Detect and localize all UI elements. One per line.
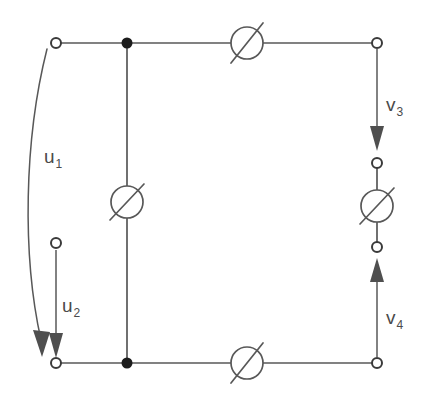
junction-top-center (122, 38, 133, 49)
terminal-top-right[interactable] (372, 38, 382, 48)
arrow-v3 (370, 49, 384, 151)
terminal-right-upper[interactable] (372, 158, 382, 168)
terminal-bottom-left[interactable] (51, 358, 61, 368)
circuit-element-group (110, 23, 394, 383)
terminal-top-left[interactable] (51, 38, 61, 48)
arrow-u2-head (49, 333, 63, 358)
voltage-label-v4-base: v (386, 307, 396, 328)
voltage-arrow-group (28, 49, 384, 358)
voltage-label-v4: v4 (386, 308, 403, 331)
voltage-label-v3-base: v (386, 94, 396, 115)
voltage-label-u2: u2 (62, 296, 80, 319)
terminal-group (51, 38, 382, 368)
element-right[interactable] (360, 188, 394, 224)
wire-group (61, 43, 377, 363)
circuit-schematic-svg (0, 0, 426, 403)
voltage-label-u2-subscript: 2 (73, 306, 81, 320)
terminal-bottom-right[interactable] (372, 358, 382, 368)
element-top[interactable] (231, 23, 263, 63)
terminal-left-middle[interactable] (51, 238, 61, 248)
voltage-label-v4-subscript: 4 (396, 318, 404, 332)
arrow-u2 (49, 250, 63, 358)
voltage-label-u2-base: u (62, 295, 73, 316)
terminal-right-lower[interactable] (372, 242, 382, 252)
arrow-u1 (28, 49, 50, 357)
junction-bottom-center (122, 358, 133, 369)
element-center[interactable] (110, 184, 144, 220)
voltage-label-v3: v3 (386, 95, 403, 118)
voltage-label-u1-subscript: 1 (55, 157, 63, 171)
voltage-label-u1: u1 (44, 147, 62, 170)
arrow-v3-head (370, 126, 384, 151)
arrow-v4-head (370, 258, 384, 282)
arrow-u1-head (33, 330, 50, 357)
circuit-diagram-figure: u1 u2 v3 v4 (0, 0, 426, 403)
element-bottom[interactable] (231, 343, 263, 383)
voltage-label-u1-base: u (44, 146, 55, 167)
arrow-u1-shaft (28, 49, 47, 340)
voltage-label-v3-subscript: 3 (396, 105, 404, 119)
arrow-v4 (370, 258, 384, 357)
